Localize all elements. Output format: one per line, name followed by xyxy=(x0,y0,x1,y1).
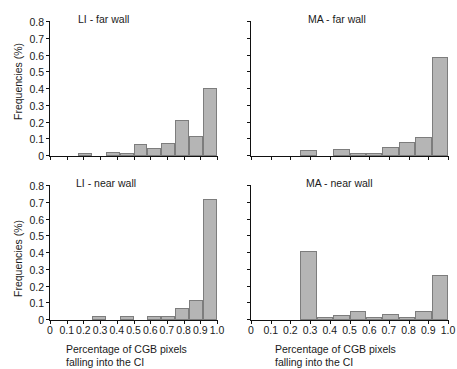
x-axis-tick-label: 0.4 xyxy=(109,325,124,336)
histogram-bar xyxy=(300,150,316,156)
histogram-bin xyxy=(134,186,148,320)
histogram-bin xyxy=(106,186,120,320)
histogram-bin xyxy=(366,186,382,320)
histogram-bar xyxy=(300,251,316,320)
histogram-bar xyxy=(120,316,134,320)
histogram-bin xyxy=(50,22,64,156)
x-axis-tick xyxy=(134,156,135,160)
histogram-bin xyxy=(106,22,120,156)
histogram-bar xyxy=(175,308,189,320)
y-axis-tick xyxy=(247,185,251,186)
histogram-bin xyxy=(251,22,267,156)
histogram-bar xyxy=(92,316,106,320)
histogram-bin xyxy=(350,186,366,320)
y-axis-tick-label: 0.5 xyxy=(29,231,44,242)
histogram-bin xyxy=(175,22,189,156)
histogram-bar xyxy=(382,314,398,320)
y-axis-tick xyxy=(46,202,50,203)
histogram-bin xyxy=(399,22,415,156)
histogram-bin xyxy=(120,22,134,156)
bar-series-ma-far-wall xyxy=(251,22,448,156)
x-axis-tick xyxy=(290,156,291,160)
x-axis-tick xyxy=(350,156,351,160)
histogram-bin xyxy=(432,186,448,320)
x-axis-tick xyxy=(184,156,185,160)
y-axis-tick xyxy=(247,302,251,303)
histogram-bin xyxy=(399,186,415,320)
histogram-bin xyxy=(92,22,106,156)
x-axis-tick xyxy=(389,156,390,160)
x-axis-tick xyxy=(251,156,252,160)
x-axis-tick-label: 1.0 xyxy=(210,325,225,336)
histogram-bin xyxy=(267,22,283,156)
y-axis-tick xyxy=(46,21,50,22)
histogram-bin xyxy=(175,186,189,320)
histogram-bin xyxy=(300,22,316,156)
histogram-bin xyxy=(366,22,382,156)
x-axis-title-li-near-wall: Percentage of CGB pixels falling into th… xyxy=(66,343,187,369)
histogram-bin xyxy=(432,22,448,156)
y-axis-tick xyxy=(247,138,251,139)
x-axis-tick xyxy=(50,156,51,160)
y-axis-tick xyxy=(46,122,50,123)
x-axis-tick-label: 0.1 xyxy=(59,325,74,336)
x-axis-tick-label: 0.8 xyxy=(176,325,191,336)
histogram-bar xyxy=(350,311,366,320)
x-axis-tick-label: 0.6 xyxy=(362,325,377,336)
x-axis-tick-label: 0.2 xyxy=(76,325,91,336)
histogram-bin xyxy=(189,186,203,320)
plot-area-li-near-wall: 00.10.20.30.40.50.60.70.800.10.20.30.40.… xyxy=(49,186,217,321)
x-axis-tick-label: 0.3 xyxy=(93,325,108,336)
histogram-bar xyxy=(350,153,366,156)
panel-ma-far-wall: MA - far wall xyxy=(228,0,457,180)
y-axis-tick xyxy=(247,202,251,203)
histogram-bar xyxy=(134,144,148,156)
y-axis-tick-label: 0.5 xyxy=(29,67,44,78)
y-axis-tick-label: 0.3 xyxy=(29,265,44,276)
y-axis-tick-label: 0.3 xyxy=(29,101,44,112)
y-axis-tick xyxy=(46,219,50,220)
y-axis-tick xyxy=(46,269,50,270)
x-axis-tick xyxy=(409,156,410,160)
histogram-bar xyxy=(203,88,217,156)
x-axis-tick-label: 0.1 xyxy=(263,325,278,336)
y-axis-tick-label: 0 xyxy=(38,151,44,162)
histogram-bin xyxy=(120,186,134,320)
histogram-bin xyxy=(50,186,64,320)
histogram-bar xyxy=(415,137,431,156)
bar-series-ma-near-wall xyxy=(251,186,448,320)
x-axis-tick xyxy=(330,156,331,160)
y-axis-tick xyxy=(247,55,251,56)
histogram-bin xyxy=(382,22,398,156)
y-axis-tick-label: 0.1 xyxy=(29,134,44,145)
panel-li-near-wall: LI - near wall 00.10.20.30.40.50.60.70.8… xyxy=(0,180,228,360)
x-axis-title-line1: Percentage of CGB pixels xyxy=(275,343,396,356)
x-axis-tick-label: 0.3 xyxy=(303,325,318,336)
x-axis-title-line1: Percentage of CGB pixels xyxy=(66,343,187,356)
y-axis-tick-label: 0.2 xyxy=(29,281,44,292)
x-axis-tick xyxy=(100,156,101,160)
histogram-bin xyxy=(203,186,217,320)
histogram-bin xyxy=(284,186,300,320)
histogram-bin xyxy=(415,186,431,320)
y-axis-tick xyxy=(247,122,251,123)
x-axis-tick xyxy=(428,156,429,160)
x-axis-tick-label: 0.7 xyxy=(160,325,175,336)
y-axis-tick xyxy=(46,286,50,287)
x-axis-tick xyxy=(167,156,168,160)
y-axis-tick-label: 0.4 xyxy=(29,84,44,95)
x-axis-tick-label: 0.5 xyxy=(342,325,357,336)
y-axis-tick xyxy=(247,38,251,39)
histogram-bar xyxy=(382,147,398,156)
x-axis-title-line2: falling into the CI xyxy=(275,356,396,369)
y-axis-tick xyxy=(247,21,251,22)
histogram-bin xyxy=(350,22,366,156)
y-axis-tick-label: 0.7 xyxy=(29,198,44,209)
y-axis-tick xyxy=(247,235,251,236)
histogram-bin xyxy=(147,186,161,320)
histogram-bar xyxy=(399,142,415,156)
histogram-bin xyxy=(284,22,300,156)
histogram-bar xyxy=(189,136,203,156)
x-axis-tick-label: 0.9 xyxy=(421,325,436,336)
